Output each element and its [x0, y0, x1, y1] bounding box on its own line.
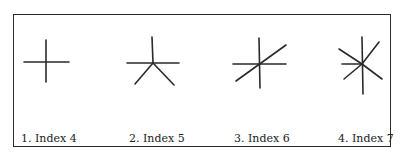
figure-index-5 — [127, 37, 179, 85]
figure-index-4 — [24, 40, 69, 82]
figure-label-3: 3. Index 6 — [234, 132, 290, 145]
figure-index-6 — [233, 38, 286, 88]
figure-label-2: 2. Index 5 — [129, 132, 185, 145]
figure-label-4: 4. Index 7 — [338, 132, 394, 145]
figure-label-1: 1. Index 4 — [21, 132, 77, 145]
figure-index-7 — [339, 37, 382, 94]
